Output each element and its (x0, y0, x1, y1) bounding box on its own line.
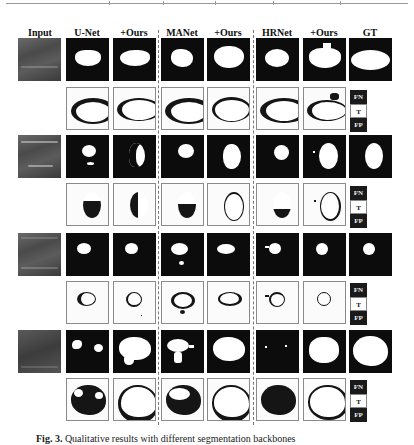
error-legend: FN T FP (350, 283, 367, 325)
error-map (161, 87, 204, 130)
figure-caption: Fig. 3. Qualitative results with differe… (36, 433, 295, 444)
prediction-mask (256, 135, 299, 178)
prediction-mask (113, 135, 156, 178)
column-header-input: Input (18, 27, 62, 38)
column-header-hrnet-ours: +Ours (302, 27, 346, 38)
column-header-unet-ours: +Ours (112, 27, 156, 38)
legend-false-negative: FN (350, 283, 367, 297)
prediction-mask (303, 233, 346, 276)
prediction-mask (207, 330, 250, 373)
error-map (303, 87, 346, 130)
legend-true: T (350, 297, 367, 311)
column-header-hrnet: HRNet (255, 27, 299, 38)
column-header-unet: U-Net (65, 27, 109, 38)
table-divider (340, 1, 341, 5)
prediction-mask (207, 233, 250, 276)
prediction-mask (113, 330, 156, 373)
error-map (66, 281, 109, 324)
input-image (18, 135, 61, 178)
error-map (256, 183, 299, 226)
error-map (66, 378, 109, 421)
error-legend: FN T FP (350, 186, 367, 228)
prediction-mask (256, 233, 299, 276)
error-map (207, 281, 250, 324)
ground-truth-mask (349, 38, 392, 81)
input-image (18, 233, 61, 276)
prediction-mask (303, 330, 346, 373)
legend-false-negative: FN (350, 186, 367, 200)
prediction-mask (207, 38, 250, 81)
error-map (303, 378, 346, 421)
error-map (113, 183, 156, 226)
prediction-mask (66, 38, 109, 81)
error-map (207, 378, 250, 421)
input-image (18, 38, 61, 81)
input-image (18, 330, 61, 373)
error-map (303, 281, 346, 324)
column-header-manet-ours: +Ours (206, 27, 250, 38)
error-map (66, 183, 109, 226)
ground-truth-mask (349, 135, 392, 178)
prediction-mask (161, 233, 204, 276)
prediction-mask (161, 38, 204, 81)
error-map (113, 87, 156, 130)
table-divider (215, 1, 216, 5)
ground-truth-mask (349, 330, 392, 373)
ground-truth-mask (349, 233, 392, 276)
error-map (303, 183, 346, 226)
error-map (66, 87, 109, 130)
legend-false-positive: FP (350, 214, 367, 228)
prediction-mask (303, 135, 346, 178)
prediction-mask (256, 330, 299, 373)
error-map (207, 87, 250, 130)
caption-text: Qualitative results with different segme… (65, 433, 296, 444)
caption-label: Fig. 3. (36, 433, 62, 444)
error-map (256, 87, 299, 130)
error-map (207, 183, 250, 226)
error-map (161, 378, 204, 421)
prediction-mask (113, 38, 156, 81)
table-divider (163, 1, 164, 5)
error-map (256, 378, 299, 421)
error-legend: FN T FP (350, 380, 367, 422)
legend-false-positive: FP (350, 311, 367, 325)
prediction-mask (207, 135, 250, 178)
error-legend: FN T FP (350, 90, 367, 132)
prediction-mask (66, 330, 109, 373)
legend-false-positive: FP (350, 118, 367, 132)
error-map (113, 378, 156, 421)
legend-false-negative: FN (350, 90, 367, 104)
error-map (256, 281, 299, 324)
prediction-mask (303, 38, 346, 81)
legend-true: T (350, 200, 367, 214)
prediction-mask (256, 38, 299, 81)
error-map (161, 281, 204, 324)
legend-true: T (350, 104, 367, 118)
prediction-mask (66, 135, 109, 178)
table-divider (109, 1, 110, 5)
legend-false-negative: FN (350, 380, 367, 394)
error-map (161, 183, 204, 226)
column-header-manet: MANet (160, 27, 204, 38)
legend-false-positive: FP (350, 408, 367, 422)
column-header-gt: GT (348, 27, 392, 38)
prediction-mask (161, 330, 204, 373)
prediction-mask (161, 135, 204, 178)
prediction-mask (113, 233, 156, 276)
prediction-mask (66, 233, 109, 276)
legend-true: T (350, 394, 367, 408)
group-separator (158, 30, 159, 425)
error-map (113, 281, 156, 324)
group-separator (253, 30, 254, 425)
table-divider (273, 1, 274, 5)
table-remnant (6, 3, 408, 4)
